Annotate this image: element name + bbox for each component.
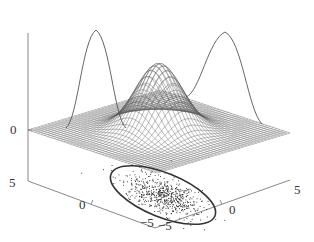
x-tick-0 xyxy=(91,200,93,204)
x-axis xyxy=(28,181,155,228)
z-tick-label-0: 0 xyxy=(10,123,17,136)
y-tick-label-0: 0 xyxy=(229,203,236,216)
y-tick-label-5: 5 xyxy=(294,183,301,196)
y-tick-0 xyxy=(220,200,222,204)
y-axis xyxy=(155,180,290,228)
y-tick-label-neg5: −5 xyxy=(158,219,172,232)
x-tick-label-neg5: −5 xyxy=(140,216,154,229)
x-tick-label-0: 0 xyxy=(79,198,86,211)
surface-mesh xyxy=(28,64,290,174)
surface-plot xyxy=(0,0,314,242)
x-tick-label-5: 5 xyxy=(9,176,16,189)
